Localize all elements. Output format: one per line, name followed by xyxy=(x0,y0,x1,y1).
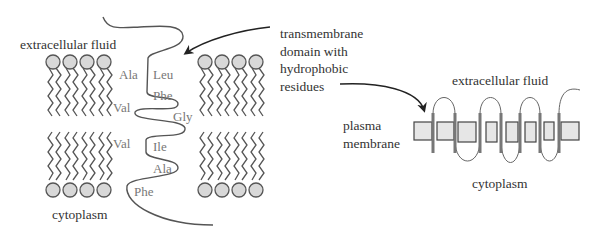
plasma-membrane-label: plasma membrane xyxy=(343,117,400,152)
residue-ala-1: Ala xyxy=(119,68,138,81)
residue-ile: Ile xyxy=(153,140,167,153)
cytoplasm-label-right: cytoplasm xyxy=(472,177,528,191)
plasma-membrane-line-1: plasma xyxy=(343,117,400,135)
lipid-bilayer-right xyxy=(198,55,264,197)
callout-line-1: transmembrane xyxy=(280,25,363,43)
residue-val-1: Val xyxy=(113,101,130,114)
polypeptide-chain xyxy=(103,17,213,225)
residue-phe-1: Phe xyxy=(153,89,173,102)
callout-line-4: residues xyxy=(280,78,363,96)
callout-arrow-left xyxy=(186,27,270,53)
lipid-bilayer-left xyxy=(46,55,112,197)
cytoplasm-label-left: cytoplasm xyxy=(52,208,108,222)
diagram: extracellular fluid cytoplasm Ala Val Va… xyxy=(0,0,600,238)
extracellular-fluid-label-right: extracellular fluid xyxy=(452,74,548,88)
extracellular-fluid-label-left: extracellular fluid xyxy=(20,38,116,52)
callout-line-2: domain with xyxy=(280,43,363,61)
residue-gly: Gly xyxy=(173,110,193,123)
transmembrane-callout: transmembrane domain with hydrophobic re… xyxy=(280,25,363,95)
membrane-schematic xyxy=(414,89,580,162)
residue-val-2: Val xyxy=(113,137,130,150)
plasma-membrane-line-2: membrane xyxy=(343,135,400,153)
residue-leu: Leu xyxy=(153,68,173,81)
residue-phe-2: Phe xyxy=(134,185,154,198)
callout-line-3: hydrophobic xyxy=(280,60,363,78)
residue-ala-2: Ala xyxy=(153,162,172,175)
